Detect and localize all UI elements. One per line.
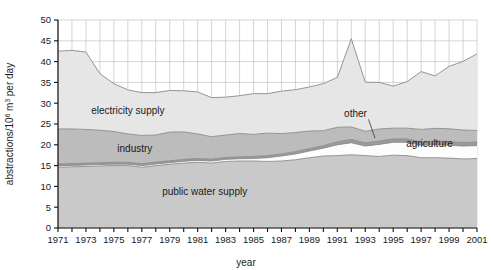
x-tick-label: 1977	[131, 234, 152, 245]
x-tick-label: 2001	[466, 234, 487, 245]
y-tick-label: 40	[40, 56, 51, 67]
x-tick-label: 1991	[327, 234, 348, 245]
y-tick-label: 10	[40, 181, 51, 192]
x-tick-label: 1999	[438, 234, 459, 245]
x-tick-label: 1987	[271, 234, 292, 245]
chart-container: 05101520253035404550 1971197319751977197…	[0, 0, 492, 270]
x-axis-title: year	[236, 257, 256, 268]
x-tick-label: 1979	[159, 234, 180, 245]
y-tick-label: 0	[46, 222, 51, 233]
x-tick-label: 1995	[383, 234, 404, 245]
series-label-other: other	[344, 108, 367, 119]
x-tick-label: 1981	[187, 234, 208, 245]
x-tick-label: 1985	[243, 234, 264, 245]
x-tick-label: 1997	[411, 234, 432, 245]
y-tick-label: 20	[40, 139, 51, 150]
y-tick-label: 15	[40, 160, 51, 171]
x-tick-label: 1989	[299, 234, 320, 245]
x-tick-label: 1971	[47, 234, 68, 245]
y-axis-title: abstractions/106 m3 per day	[4, 63, 15, 185]
y-tick-label: 50	[40, 14, 51, 25]
x-tick-label: 1973	[75, 234, 96, 245]
y-tick-label: 45	[40, 35, 51, 46]
series-label-electricity-supply: electricity supply	[91, 105, 164, 116]
x-tick-label: 1975	[103, 234, 124, 245]
x-tick-label: 1993	[355, 234, 376, 245]
series-label-public-water-supply: public water supply	[162, 186, 247, 197]
y-tick-label: 35	[40, 77, 51, 88]
y-tick-label: 5	[46, 202, 51, 213]
series-label-agriculture: agriculture	[406, 138, 453, 149]
y-tick-label: 25	[40, 118, 51, 129]
stacked-area-chart: 05101520253035404550 1971197319751977197…	[0, 0, 492, 270]
y-tick-label: 30	[40, 98, 51, 109]
series-label-industry: industry	[117, 143, 152, 154]
x-tick-label: 1983	[215, 234, 236, 245]
